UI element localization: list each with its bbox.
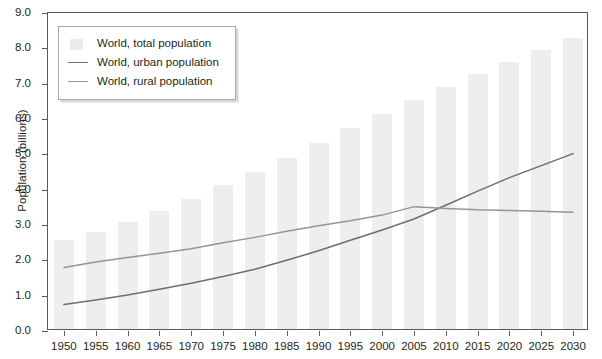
x-axis-tick-label: 2030 — [553, 340, 593, 352]
y-axis-tick — [42, 190, 48, 191]
y-axis-tick — [42, 13, 48, 14]
x-axis-tick — [64, 331, 65, 336]
population-chart: Population (billions) 0.01.02.03.04.05.0… — [0, 0, 602, 359]
legend-item-label: World, total population — [97, 37, 211, 50]
x-axis-tick — [478, 331, 479, 336]
y-axis-tick — [42, 225, 48, 226]
legend-item: World, urban population — [68, 53, 226, 72]
x-axis-tick — [287, 331, 288, 336]
y-axis-tick-label: 8.0 — [0, 42, 31, 54]
x-axis-tick — [382, 331, 383, 336]
x-axis-tick — [255, 331, 256, 336]
x-axis-tick — [223, 331, 224, 336]
x-axis-tick — [573, 331, 574, 336]
x-axis-tick — [446, 331, 447, 336]
swatch-rural-icon — [68, 75, 88, 89]
y-axis-tick-label: 5.0 — [0, 148, 31, 160]
x-axis-tick — [191, 331, 192, 336]
y-axis-tick — [42, 84, 48, 85]
chart-legend: World, total populationWorld, urban popu… — [58, 26, 236, 100]
y-axis-tick-label: 7.0 — [0, 78, 31, 90]
y-axis-tick — [42, 260, 48, 261]
x-axis-tick — [159, 331, 160, 336]
y-axis-tick-label: 6.0 — [0, 113, 31, 125]
y-axis-tick — [42, 119, 48, 120]
legend-item: World, total population — [68, 34, 226, 53]
x-axis-tick — [541, 331, 542, 336]
swatch-urban-icon — [68, 56, 88, 70]
y-axis-tick-label: 0.0 — [0, 325, 31, 337]
x-axis-tick — [350, 331, 351, 336]
x-axis-tick — [96, 331, 97, 336]
y-axis-tick-label: 2.0 — [0, 254, 31, 266]
y-axis-tick — [42, 331, 48, 332]
y-axis-tick-label: 1.0 — [0, 290, 31, 302]
x-axis-tick — [414, 331, 415, 336]
line-series — [64, 207, 573, 268]
y-axis-tick — [42, 48, 48, 49]
x-axis-tick — [509, 331, 510, 336]
legend-item: World, rural population — [68, 72, 226, 91]
y-axis-tick — [42, 296, 48, 297]
y-axis-tick — [42, 154, 48, 155]
y-axis-tick-label: 4.0 — [0, 184, 31, 196]
swatch-total-icon — [68, 37, 88, 51]
x-axis-tick — [128, 331, 129, 336]
x-axis-tick — [319, 331, 320, 336]
y-axis-tick-label: 9.0 — [0, 7, 31, 19]
line-series — [64, 154, 573, 305]
legend-item-label: World, urban population — [97, 56, 219, 69]
legend-item-label: World, rural population — [97, 75, 213, 88]
y-axis-tick-label: 3.0 — [0, 219, 31, 231]
